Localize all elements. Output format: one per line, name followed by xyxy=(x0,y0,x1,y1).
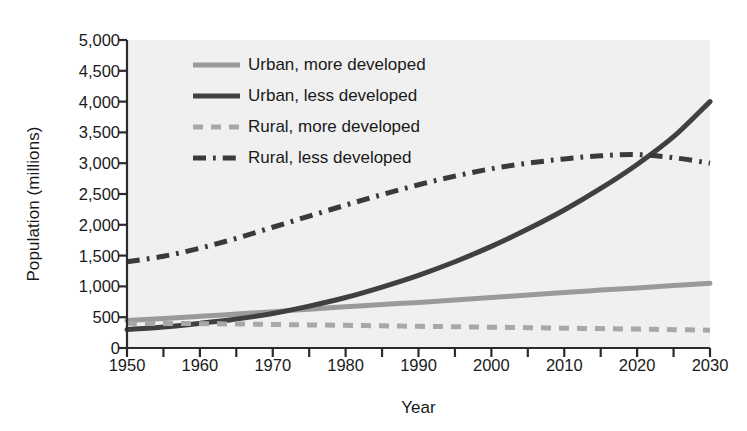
legend-label-3: Rural, less developed xyxy=(248,148,411,168)
legend-label-2: Rural, more developed xyxy=(248,117,420,137)
legend-label-0: Urban, more developed xyxy=(248,55,426,75)
legend-label-1: Urban, less developed xyxy=(248,86,417,106)
population-line-chart: Population (millions) 05001,0001,5002,00… xyxy=(0,0,747,431)
